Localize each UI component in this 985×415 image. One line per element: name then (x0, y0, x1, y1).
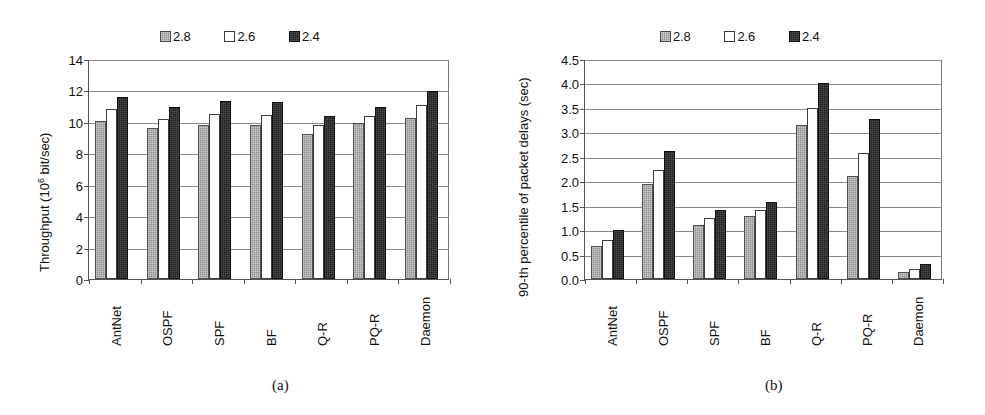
legend-item-2-4[interactable]: 2.4 (789, 30, 819, 43)
bar-daemon-2-6[interactable] (416, 105, 427, 279)
caption-panel-b: (b) (765, 377, 783, 394)
bar-antnet-2-6[interactable] (106, 109, 117, 279)
legend-item-2-8[interactable]: 2.8 (160, 30, 190, 43)
x-axis-label-bf: BF (265, 329, 278, 346)
bar-daemon-2-6[interactable] (909, 269, 920, 279)
x-axis-label-q-r: Q-R (316, 322, 329, 346)
plot-area-panel-a: 02468101214 (88, 60, 449, 280)
y-axis-tick-label: 3.0 (561, 127, 579, 140)
legend-item-2-6[interactable]: 2.6 (724, 30, 754, 43)
bar-q-r-2-8[interactable] (302, 134, 313, 279)
bar-q-r-2-6[interactable] (313, 125, 324, 279)
legend-label: 2.8 (173, 30, 190, 43)
x-axis-tick (585, 279, 586, 284)
x-axis-tick (687, 279, 688, 284)
bar-ospf-2-6[interactable] (653, 170, 664, 280)
bar-antnet-2-4[interactable] (117, 97, 128, 279)
legend-item-2-4[interactable]: 2.4 (289, 30, 319, 43)
bar-spf-2-8[interactable] (693, 225, 704, 279)
y-axis-tick-label: 1.0 (561, 225, 579, 238)
bar-bf-2-6[interactable] (261, 115, 272, 279)
y-axis-tick-label: 12 (69, 85, 83, 98)
panel-a: 2.82.62.4 Throughput (106 bit/sec) 02468… (0, 0, 492, 415)
bar-bf-2-4[interactable] (766, 202, 777, 279)
bar-group-antnet (89, 60, 147, 279)
x-axis-tick (738, 279, 739, 284)
x-axis-label-pq-r: PQ-R (368, 314, 381, 347)
bar-antnet-2-4[interactable] (613, 230, 624, 279)
x-axis-tick (790, 279, 791, 284)
x-axis-label-spf: SPF (708, 321, 721, 346)
x-axis-tick (295, 279, 296, 284)
bar-ospf-2-6[interactable] (158, 119, 169, 279)
empty-white-square-icon (224, 31, 235, 42)
x-axis-label-q-r: Q-R (810, 322, 823, 346)
bar-antnet-2-8[interactable] (591, 246, 602, 279)
bar-q-r-2-4[interactable] (324, 116, 335, 279)
bar-spf-2-4[interactable] (220, 101, 231, 279)
y-axis-tick-label: 4.5 (561, 54, 579, 67)
bar-ospf-2-4[interactable] (664, 151, 675, 279)
plot-area-panel-b: 0.00.51.01.52.02.53.03.54.04.5 (584, 60, 942, 280)
bar-group-spf (687, 60, 744, 279)
bar-spf-2-4[interactable] (715, 210, 726, 279)
x-axis-label-bf: BF (759, 329, 772, 346)
bar-pq-r-2-4[interactable] (375, 107, 386, 279)
bar-pq-r-2-8[interactable] (353, 123, 364, 279)
bar-pq-r-2-6[interactable] (858, 153, 869, 279)
x-axis-tick (347, 279, 348, 284)
legend-item-2-6[interactable]: 2.6 (224, 30, 254, 43)
panel-b: 2.82.62.4 90-th percentile of packet del… (493, 0, 985, 415)
bar-antnet-2-6[interactable] (602, 240, 613, 279)
x-axis-label-daemon: Daemon (912, 297, 925, 346)
x-axis-label-pq-r: PQ-R (861, 314, 874, 347)
bar-spf-2-6[interactable] (704, 218, 715, 279)
legend-panel-b: 2.82.62.4 (660, 30, 819, 43)
x-axis-label-antnet: AntNet (606, 306, 619, 346)
bar-q-r-2-6[interactable] (807, 108, 818, 279)
x-axis-label-ospf: OSPF (161, 311, 174, 346)
y-axis-tick-label: 8 (76, 148, 83, 161)
bar-spf-2-6[interactable] (209, 114, 220, 279)
bar-group-pq-r (347, 60, 405, 279)
legend-label: 2.6 (237, 30, 254, 43)
bar-bf-2-4[interactable] (272, 102, 283, 279)
bar-group-antnet (585, 60, 642, 279)
y-axis-tick-label: 2 (76, 242, 83, 255)
x-axis-tick (192, 279, 193, 284)
bar-daemon-2-8[interactable] (405, 118, 416, 279)
x-axis-label-ospf: OSPF (657, 311, 670, 346)
figure-two-panel-bar-charts: 2.82.62.4 Throughput (106 bit/sec) 02468… (0, 0, 985, 415)
x-axis-tick (398, 279, 399, 284)
bar-antnet-2-8[interactable] (95, 121, 106, 279)
bar-pq-r-2-8[interactable] (847, 176, 858, 279)
bar-daemon-2-4[interactable] (427, 91, 438, 279)
y-axis-tick-label: 4.0 (561, 78, 579, 91)
bar-bf-2-8[interactable] (744, 216, 755, 279)
bar-bf-2-8[interactable] (250, 125, 261, 279)
x-axis-tick (89, 279, 90, 284)
bar-pq-r-2-6[interactable] (364, 116, 375, 279)
filled-black-square-icon (789, 31, 800, 42)
bar-spf-2-8[interactable] (198, 125, 209, 279)
bar-ospf-2-8[interactable] (147, 128, 158, 279)
y-axis-tick-label: 0.0 (561, 274, 579, 287)
y-axis-tick-label: 0.5 (561, 249, 579, 262)
x-axis-tick (450, 279, 451, 284)
x-axis-tick (892, 279, 893, 284)
bar-daemon-2-8[interactable] (898, 272, 909, 279)
bar-daemon-2-4[interactable] (920, 264, 931, 279)
x-axis-tick (244, 279, 245, 284)
bar-q-r-2-8[interactable] (796, 125, 807, 279)
bar-ospf-2-4[interactable] (169, 107, 180, 279)
y-axis-tick-label: 2.5 (561, 151, 579, 164)
bar-bf-2-6[interactable] (755, 210, 766, 279)
x-axis-tick (636, 279, 637, 284)
y-axis-title-panel-b: 90-th percentile of packet delays (sec) (517, 77, 531, 297)
legend-item-2-8[interactable]: 2.8 (660, 30, 690, 43)
bar-group-q-r (295, 60, 353, 279)
bar-ospf-2-8[interactable] (642, 184, 653, 279)
bar-group-ospf (141, 60, 199, 279)
bar-pq-r-2-4[interactable] (869, 119, 880, 279)
bar-q-r-2-4[interactable] (818, 83, 829, 279)
